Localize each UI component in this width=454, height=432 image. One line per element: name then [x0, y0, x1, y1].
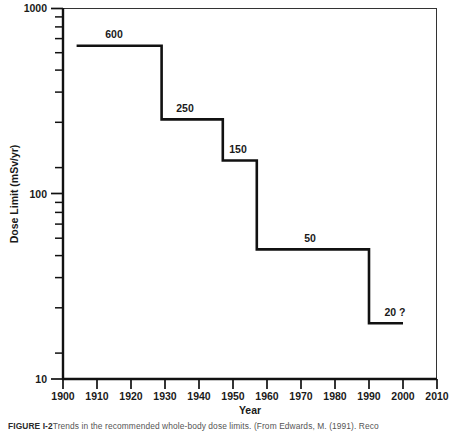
data-label-50: 50 — [304, 232, 316, 244]
x-tick-label-1930: 1930 — [153, 390, 177, 402]
x-tick-label-1950: 1950 — [221, 390, 245, 402]
data-label-600: 600 — [105, 28, 123, 40]
x-tick-label-1970: 1970 — [289, 390, 313, 402]
x-ticks — [63, 379, 437, 389]
x-axis-title: Year — [239, 404, 261, 416]
dose-limit-step-chart: 1000 100 10 Dose Limit (mSv/yr) 1900 191… — [0, 0, 454, 432]
x-tick-label-1900: 1900 — [51, 390, 75, 402]
y-axis-title: Dose Limit (mSv/yr) — [8, 145, 20, 244]
x-tick-label-1990: 1990 — [357, 390, 381, 402]
y-tick-label-1000: 1000 — [24, 2, 48, 14]
y-tick-label-10: 10 — [35, 373, 47, 385]
figure-caption-text: Trends in the recommended whole-body dos… — [53, 421, 379, 431]
figure-container: 1000 100 10 Dose Limit (mSv/yr) 1900 191… — [0, 0, 454, 432]
x-tick-label-2000: 2000 — [391, 390, 415, 402]
x-tick-label-1920: 1920 — [119, 390, 143, 402]
y-major-ticks — [51, 9, 63, 380]
data-label-20: 20 ? — [384, 306, 405, 318]
figure-caption: FIGURE I-2Trends in the recommended whol… — [8, 421, 454, 431]
x-tick-label-2010: 2010 — [425, 390, 449, 402]
x-tick-label-1960: 1960 — [255, 390, 279, 402]
y-tick-label-100: 100 — [29, 188, 47, 200]
x-tick-label-1940: 1940 — [187, 390, 211, 402]
data-label-250: 250 — [176, 102, 194, 114]
x-tick-label-1980: 1980 — [323, 390, 347, 402]
figure-caption-number: FIGURE I-2 — [8, 421, 53, 431]
data-label-150: 150 — [229, 143, 247, 155]
x-tick-label-1910: 1910 — [85, 390, 109, 402]
step-series-dose-limit — [77, 46, 403, 324]
